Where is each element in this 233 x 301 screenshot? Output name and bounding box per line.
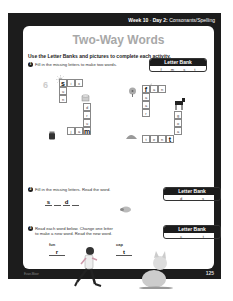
- puzzle-cell[interactable]: f: [142, 85, 150, 93]
- letter-bank-2: Letter Bank d s: [163, 187, 221, 201]
- activity-2-prompt: 2 Fill in the missing letters. Read the …: [28, 187, 110, 192]
- puzzle-cell[interactable]: u: [59, 87, 67, 95]
- cat-icon: [138, 251, 174, 293]
- puzzle-cell[interactable]: a: [142, 101, 150, 109]
- letter-bank-3: Letter Bank c t: [163, 225, 221, 239]
- answer-blank-1[interactable]: r: [49, 248, 65, 256]
- puzzle-cell[interactable]: o: [174, 119, 182, 127]
- letter-bank-letters: c t: [164, 233, 220, 240]
- puzzle-cell[interactable]: m: [83, 127, 91, 135]
- letter-bank-1: Letter Bank f m s t: [149, 58, 207, 72]
- letter-blank[interactable]: d: [63, 198, 70, 206]
- jam-jar-icon: [48, 126, 56, 144]
- letter-bank-letters: d s: [164, 195, 220, 202]
- activity-1-prompt: 1 Fill in the missing letters to make tw…: [28, 62, 117, 67]
- puzzle-cell[interactable]: a: [75, 127, 83, 135]
- puzzle-hint-number: 6: [43, 80, 48, 90]
- fan-icon: [128, 83, 137, 101]
- puzzle-cell[interactable]: a: [150, 85, 158, 93]
- puzzle-cell[interactable]: s: [59, 79, 67, 87]
- answer-blank-2[interactable]: t: [116, 248, 132, 256]
- header-week-day: Week 10 · Day 2: Consonants/Spelling: [128, 17, 215, 23]
- footer-publisher: Evan-Moor: [24, 272, 39, 276]
- page-title: Two-Way Words: [23, 33, 214, 47]
- activity-3-prompt: 3 Read each word below. Change one lette…: [28, 226, 113, 236]
- step-number-badge: 2: [28, 187, 33, 192]
- puzzle-cell[interactable]: a: [142, 93, 150, 101]
- puzzle-cell[interactable]: t: [142, 135, 150, 143]
- letter-bank-letters: f m s t: [150, 66, 206, 73]
- puzzle-cell[interactable]: i: [67, 79, 75, 87]
- puzzle-cell[interactable]: u: [83, 119, 91, 127]
- given-word-1: fun: [49, 242, 55, 247]
- letter-blank[interactable]: [54, 198, 61, 206]
- puzzle-cell[interactable]: r: [142, 109, 150, 117]
- runner-icon: [73, 246, 103, 295]
- puzzle-cell[interactable]: n: [59, 95, 67, 103]
- tent-icon: [126, 125, 137, 143]
- step-number-badge: 1: [28, 62, 33, 67]
- puzzle-cell[interactable]: n: [158, 135, 166, 143]
- puzzle-cell[interactable]: t: [166, 135, 174, 143]
- letter-blank[interactable]: s: [45, 198, 52, 206]
- puzzle-cell[interactable]: d: [83, 103, 91, 111]
- given-word-2: cap: [116, 242, 123, 247]
- puzzle-cell[interactable]: x: [75, 79, 83, 87]
- worksheet-frame: Week 10 · Day 2: Consonants/Spelling Two…: [8, 13, 221, 279]
- letter-blank[interactable]: [72, 198, 79, 206]
- puzzle-cell[interactable]: j: [67, 127, 75, 135]
- puzzle-cell[interactable]: r: [83, 111, 91, 119]
- puzzle-cell[interactable]: g: [174, 111, 182, 119]
- page-number: 125: [206, 270, 214, 276]
- worksheet-card: Two-Way Words Use the Letter Banks and p…: [23, 26, 214, 269]
- puzzle-cell[interactable]: n: [158, 85, 166, 93]
- step-number-badge: 3: [28, 226, 33, 231]
- puzzle-cell[interactable]: a: [174, 127, 182, 135]
- puzzle-cell[interactable]: e: [150, 135, 158, 143]
- seed-icon: [118, 199, 132, 217]
